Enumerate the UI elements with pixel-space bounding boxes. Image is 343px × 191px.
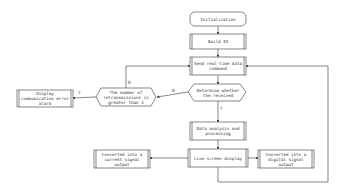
flowchart: Initialization Build IO Send real-time d… (0, 0, 343, 191)
node-text: Converted into a current signal output (98, 152, 146, 167)
node-text: Build IO (208, 39, 228, 44)
node-text: Send real-time data command (194, 61, 242, 71)
label-determine-yes: Y (220, 106, 223, 111)
node-text: Converted into a digital signal output (262, 152, 310, 167)
node-digital-output: Converted into a digital signal output (262, 150, 310, 168)
node-error-alarm: Display communication error alarm (21, 90, 69, 107)
node-text: Live screen display (194, 156, 242, 161)
node-send-command: Send real-time data command (194, 57, 242, 75)
node-retransmissions: The number of retransmissions is greater… (103, 88, 149, 106)
node-text: Display communication error alarm (21, 91, 69, 106)
node-determine-received: Determine whether the received (196, 84, 240, 101)
label-retrans-yes: Y (78, 90, 81, 95)
node-text: Initialization (200, 17, 235, 22)
node-text: Determine whether the received (196, 88, 240, 98)
label-determine-no: N (172, 88, 175, 93)
node-initialization: Initialization (190, 12, 246, 26)
node-live-display: Live screen display (192, 149, 244, 167)
node-text: The number of retransmissions is greater… (103, 90, 149, 105)
node-data-analysis: Data analysis and processing (194, 122, 242, 140)
label-retrans-no: N (128, 80, 131, 85)
node-build-io: Build IO (190, 34, 246, 49)
node-text: Data analysis and processing (194, 126, 242, 136)
node-current-output: Converted into a current signal output (98, 150, 146, 168)
